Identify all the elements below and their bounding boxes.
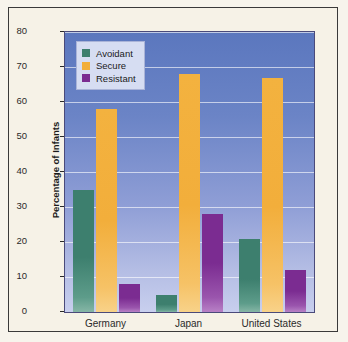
y-axis-tick-label: 50 (0, 130, 27, 141)
x-axis-tick-label: Germany (85, 318, 126, 329)
legend-label-avoidant: Avoidant (96, 48, 133, 59)
legend-swatch-resistant (82, 74, 90, 82)
legend-item-resistant: Resistant (82, 73, 136, 84)
y-axis-tick-mark (60, 101, 64, 102)
y-axis-tick-mark (60, 241, 64, 242)
chart-legend: Avoidant Secure Resistant (76, 41, 145, 90)
y-axis-tick-label: 40 (0, 165, 27, 176)
y-axis-tick-label: 20 (0, 235, 27, 246)
bar-germany-secure (96, 109, 117, 312)
y-axis-tick-mark (60, 311, 64, 312)
y-axis-tick-label: 0 (0, 305, 27, 316)
y-axis-tick-mark (60, 276, 64, 277)
y-axis-tick-mark (60, 31, 64, 32)
y-axis-tick-label: 80 (0, 25, 27, 36)
bar-germany-avoidant (73, 190, 94, 313)
y-axis-tick-mark (60, 206, 64, 207)
legend-label-resistant: Resistant (96, 73, 136, 84)
x-axis-tick-label: Japan (175, 318, 202, 329)
y-axis-tick-label: 60 (0, 95, 27, 106)
chart-figure: Percentage of Infants Avoidant Secure Re… (8, 7, 338, 332)
legend-swatch-secure (82, 62, 90, 70)
y-axis-tick-mark (60, 66, 64, 67)
bar-japan-avoidant (156, 295, 177, 313)
legend-swatch-avoidant (82, 49, 90, 57)
bar-japan-secure (179, 74, 200, 312)
legend-item-avoidant: Avoidant (82, 48, 136, 59)
bar-japan-resistant (202, 214, 223, 312)
y-axis-tick-label: 70 (0, 60, 27, 71)
x-axis-tick-label: United States (241, 318, 301, 329)
bar-united-states-secure (262, 78, 283, 313)
legend-label-secure: Secure (96, 60, 126, 71)
y-axis-tick-mark (60, 136, 64, 137)
y-axis-tick-label: 10 (0, 270, 27, 281)
legend-item-secure: Secure (82, 60, 136, 71)
plot-area: Avoidant Secure Resistant (64, 31, 315, 313)
bar-united-states-avoidant (239, 239, 260, 313)
bar-germany-resistant (119, 284, 140, 312)
gridline (65, 32, 314, 33)
bar-united-states-resistant (285, 270, 306, 312)
y-axis-tick-mark (60, 171, 64, 172)
y-axis-tick-label: 30 (0, 200, 27, 211)
